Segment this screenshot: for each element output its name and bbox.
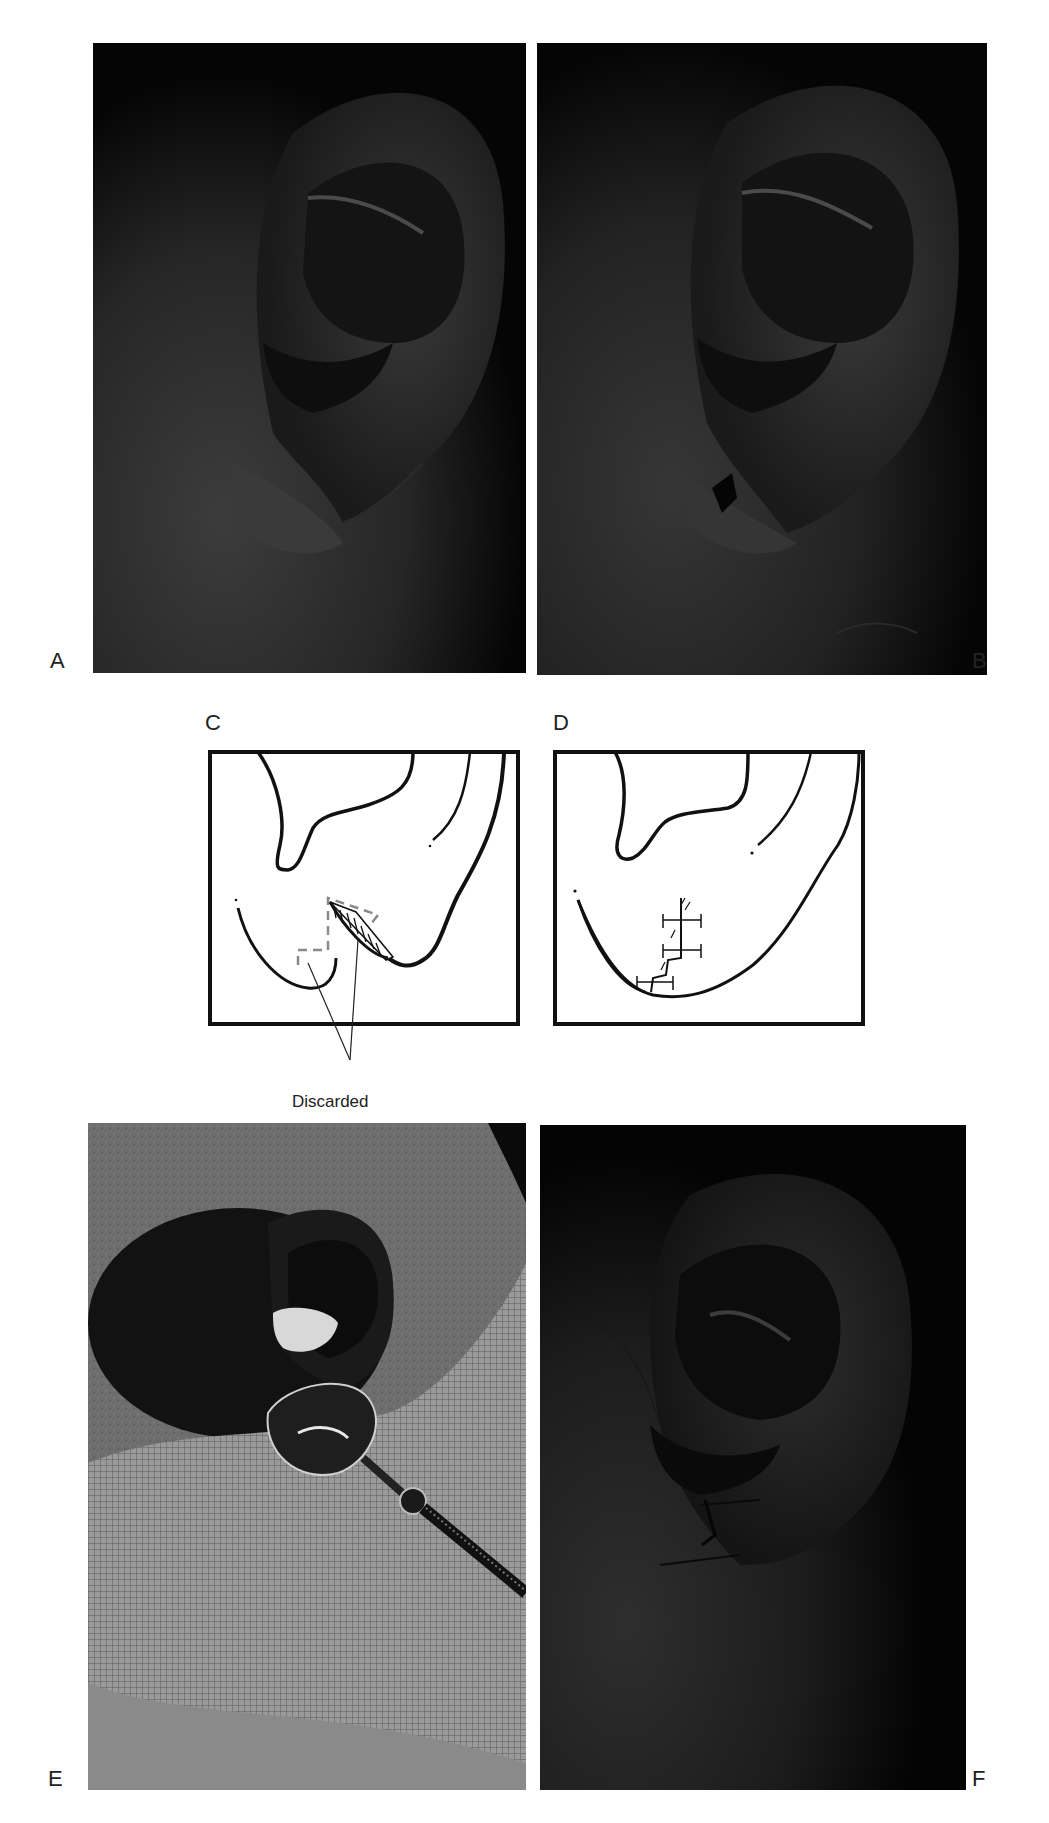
- panel-label-e: E: [48, 1768, 63, 1790]
- postoperative-photo: [540, 1125, 966, 1790]
- diagram-panel-d: [553, 750, 865, 1026]
- intraoperative-photo: [88, 1123, 526, 1790]
- z-plasty-design-diagram: [208, 750, 520, 1026]
- discarded-label: Discarded: [292, 1092, 369, 1112]
- panel-label-f: F: [972, 1768, 985, 1790]
- panel-label-a: A: [50, 650, 65, 672]
- ear-photo-marked: [537, 43, 987, 675]
- photo-panel-e: [88, 1123, 526, 1790]
- panel-label-c: C: [205, 712, 221, 734]
- photo-panel-a: [93, 43, 526, 673]
- panel-label-b: B: [972, 650, 987, 672]
- diagram-panel-c: [208, 750, 520, 1026]
- photo-panel-f: [540, 1125, 966, 1790]
- panel-label-d: D: [553, 712, 569, 734]
- ear-photo-preop: [93, 43, 526, 673]
- photo-panel-b: [537, 43, 987, 675]
- sutured-repair-diagram: [553, 750, 865, 1026]
